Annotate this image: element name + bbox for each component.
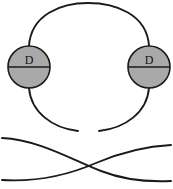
diagram-svg: D D bbox=[0, 0, 173, 189]
left-node-label: D bbox=[25, 53, 34, 67]
figure-canvas: D D bbox=[0, 0, 173, 189]
left-detector-node: D bbox=[8, 46, 50, 88]
right-node-label: D bbox=[145, 53, 154, 67]
right-detector-node: D bbox=[128, 46, 170, 88]
